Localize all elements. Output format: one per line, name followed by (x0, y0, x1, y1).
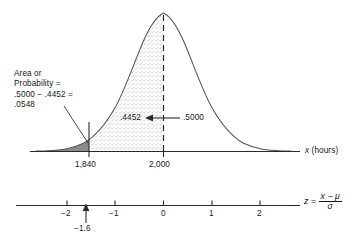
formula-denominator: σ (319, 202, 342, 211)
label-area-4452: .4452 (120, 113, 141, 122)
annotation-leader-line (64, 106, 88, 143)
area-probability-annotation: Area or Probability = .5000 − .4452 = .0… (14, 69, 73, 111)
figure-canvas: Area or Probability = .5000 − .4452 = .0… (0, 0, 361, 242)
z-tick-label-one: 1 (209, 209, 214, 218)
z-score-formula: z = x − μσ (304, 192, 342, 211)
x-tick-label-2000: 2,000 (149, 160, 170, 169)
x-axis-label: x (hours) (305, 146, 338, 155)
label-area-5000: .5000 (183, 113, 204, 122)
z-tick-label-zero: 0 (161, 209, 166, 218)
x-tick-label-1840: 1,840 (75, 160, 96, 169)
annotation-line-1: Area or (14, 69, 73, 79)
annotation-line-2: Probability = (14, 79, 73, 89)
formula-fraction: x − μσ (319, 192, 342, 211)
z-marker-arrow-head (83, 204, 90, 212)
z-tick-label-minus2: −2 (61, 209, 71, 218)
annotation-line-4: .0548 (14, 100, 73, 110)
z-tick-label-two: 2 (257, 209, 262, 218)
annotation-line-3: .5000 − .4452 = (14, 90, 73, 100)
x-axis-unit: (hours) (312, 146, 339, 155)
z-marker-label: −1.6 (74, 224, 91, 233)
z-tick-label-minus1: −1 (109, 209, 119, 218)
